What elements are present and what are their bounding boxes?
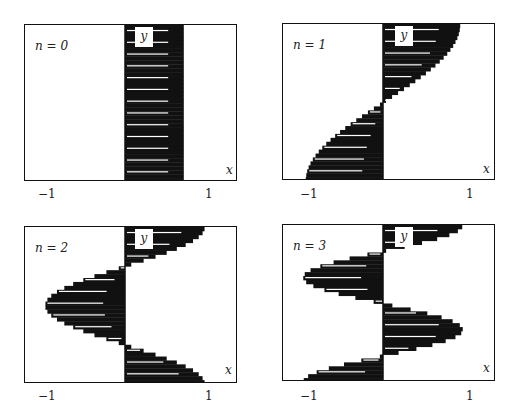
x-tick-neg1: −1 bbox=[300, 389, 318, 403]
n-label: n = 2 bbox=[35, 241, 68, 255]
x-axis-label: x bbox=[483, 361, 490, 375]
x-tick-1: 1 bbox=[205, 389, 213, 403]
y-axis-label: y bbox=[135, 229, 153, 249]
x-tick-1: 1 bbox=[466, 389, 474, 403]
plot-frame: n = 2 y x bbox=[24, 226, 237, 383]
x-tick-neg1: −1 bbox=[38, 187, 56, 201]
plot-frame: n = 0 y x bbox=[24, 24, 237, 181]
n-label: n = 3 bbox=[293, 239, 326, 253]
x-tick-1: 1 bbox=[466, 187, 474, 201]
y-axis-label: y bbox=[135, 27, 153, 47]
plot-frame: n = 1 y x bbox=[282, 23, 495, 180]
y-axis-label: y bbox=[395, 227, 413, 247]
y-axis-label: y bbox=[395, 26, 413, 46]
x-axis-label: x bbox=[225, 363, 232, 377]
n-label: n = 1 bbox=[293, 38, 326, 52]
plot-frame: n = 3 y x bbox=[282, 224, 495, 381]
x-axis-label: x bbox=[226, 163, 233, 177]
n-label: n = 0 bbox=[35, 39, 68, 53]
x-tick-neg1: −1 bbox=[38, 389, 56, 403]
x-tick-1: 1 bbox=[205, 187, 213, 201]
x-axis-label: x bbox=[483, 162, 490, 176]
x-tick-neg1: −1 bbox=[300, 187, 318, 201]
